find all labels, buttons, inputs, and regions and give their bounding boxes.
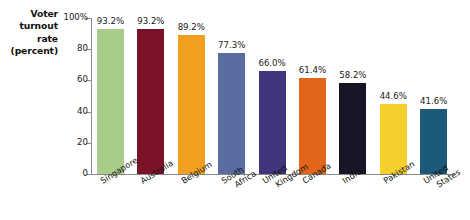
y-axis-title-line-2: turnout (2, 20, 58, 32)
bar-value-label: 89.2% (178, 22, 205, 32)
y-axis-tick-label: 40 (77, 106, 88, 117)
bar: 58.2% (339, 83, 366, 174)
plot-area: 100%806040200 93.2%93.2%89.2%77.3%66.0%6… (91, 18, 455, 174)
y-axis-title: Voter turnout rate (percent) (2, 8, 58, 57)
bar-value-label: 93.2% (137, 16, 164, 26)
bar: 89.2% (178, 35, 205, 174)
bar-value-label: 61.4% (299, 65, 326, 75)
y-axis-tick-label: 60 (77, 74, 88, 85)
y-axis-line (91, 18, 92, 174)
bar-value-label: 44.6% (380, 91, 407, 101)
y-axis-title-line-1: Voter (2, 8, 58, 20)
bar: 93.2% (137, 29, 164, 174)
bar: 77.3% (218, 53, 245, 174)
bar-value-label: 93.2% (97, 16, 124, 26)
y-axis-tick-label: 0 (83, 168, 88, 179)
y-axis-title-line-3: rate (2, 33, 58, 45)
bar: 66.0% (259, 71, 286, 174)
bar-chart: Voter turnout rate (percent) 100%8060402… (0, 0, 470, 220)
y-axis-tick-label: 20 (77, 137, 88, 148)
y-axis-tick-label: 80 (77, 43, 88, 54)
bar: 93.2% (97, 29, 124, 174)
bar-value-label: 66.0% (258, 58, 285, 68)
bar-value-label: 41.6% (420, 96, 447, 106)
y-axis-tick-label: 100% (63, 12, 88, 23)
y-axis-title-line-4: (percent) (2, 45, 58, 57)
bar-value-label: 58.2% (339, 70, 366, 80)
bar-value-label: 77.3% (218, 40, 245, 50)
